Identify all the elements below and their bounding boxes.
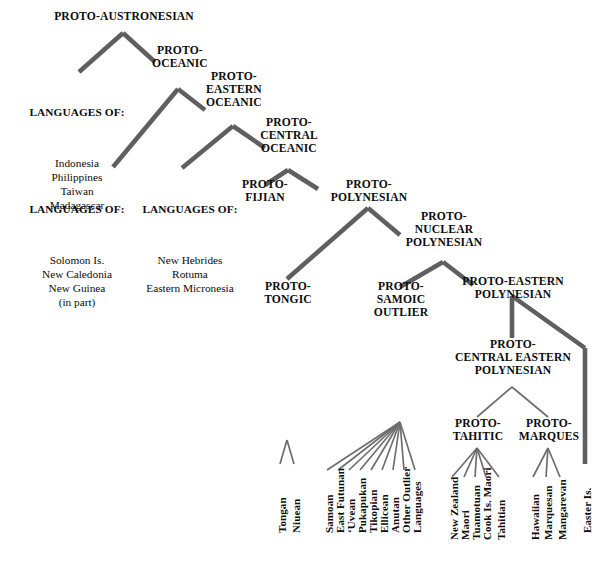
node-proto-central-eastern-polynesian[interactable]: PROTO- CENTRAL EASTERN POLYNESIAN — [435, 338, 591, 377]
edge-pcep-to-tahitic — [477, 387, 512, 417]
group-western-heading: LANGUAGES OF: — [12, 106, 142, 119]
edge-tongic-leaf-0 — [280, 440, 287, 464]
node-proto-tongic[interactable]: PROTO- TONGIC — [249, 280, 327, 306]
leaf-cook-is-maori[interactable]: Cook Is. Maori — [481, 467, 493, 540]
leaf-tahitian[interactable]: Tahitian — [495, 500, 507, 540]
edge-samoic-leaf-3 — [360, 422, 400, 470]
edge-tahitic-leaf-2 — [475, 448, 477, 477]
node-proto-austronesian[interactable]: PROTO-AUSTRONESIAN — [34, 10, 214, 23]
leaf-marquesan[interactable]: Marquesan — [542, 486, 554, 540]
node-proto-samoic-outlier[interactable]: PROTO- SAMOIC OUTLIER — [362, 280, 440, 319]
group-melanesian-heading: LANGUAGES OF: — [12, 203, 142, 216]
node-proto-oceanic[interactable]: PROTO- OCEANIC — [135, 44, 225, 70]
edge-marques-leaf-0 — [533, 448, 548, 477]
node-proto-nuclear-polynesian[interactable]: PROTO- NUCLEAR POLYNESIAN — [391, 210, 497, 249]
edge-tahitic-leaf-1 — [464, 448, 477, 477]
edge-samoic-leaf-8 — [400, 422, 415, 470]
leaf-niuean[interactable]: Niuean — [290, 499, 302, 533]
edge-tahitic-leaf-0 — [452, 448, 477, 477]
edge-samoic-leaf-7 — [400, 422, 404, 470]
group-melanesian-languages[interactable]: LANGUAGES OF: Solomon Is. New Caledonia … — [12, 165, 142, 348]
node-proto-eastern-polynesian[interactable]: PROTO-EASTERN POLYNESIAN — [452, 275, 574, 301]
node-proto-marques[interactable]: PROTO- MARQUES — [508, 417, 590, 443]
edge-marques-leaf-2 — [548, 448, 560, 477]
edge-samoic-leaf-0 — [327, 422, 400, 470]
leaf-mangarevan[interactable]: Mangarevan — [556, 479, 568, 540]
edge-samoic-leaf-5 — [382, 422, 400, 470]
edge-eo-to-eo-langs — [182, 126, 233, 168]
edge-tongic-leaf-1 — [287, 440, 294, 464]
edge-pp-to-tongic — [287, 208, 368, 279]
edge-samoic-leaf-1 — [338, 422, 400, 470]
edge-pcep-to-marques — [512, 387, 548, 417]
leaf-tongan[interactable]: Tongan — [276, 497, 288, 533]
leaf-easter-is[interactable]: Easter Is. — [581, 488, 593, 533]
group-eastern-oceanic-members: New Hebrides Rotuma Eastern Micronesia — [125, 254, 255, 295]
group-eastern-oceanic-heading: LANGUAGES OF: — [125, 203, 255, 216]
edge-pan-to-western — [79, 33, 123, 72]
group-eastern-oceanic-languages[interactable]: LANGUAGES OF: New Hebrides Rotuma Easter… — [125, 165, 255, 334]
group-melanesian-members: Solomon Is. New Caledonia New Guinea (in… — [12, 254, 142, 309]
edge-marques-leaf-1 — [546, 448, 548, 477]
edge-samoic-leaf-6 — [393, 422, 400, 470]
leaf-other-outlier-languages[interactable]: Languages — [411, 481, 423, 533]
node-proto-polynesian[interactable]: PROTO- POLYNESIAN — [316, 178, 422, 204]
node-proto-central-oceanic[interactable]: PROTO- CENTRAL OCEANIC — [244, 116, 334, 155]
language-family-tree-diagram: PROTO-AUSTRONESIAN PROTO- OCEANIC PROTO-… — [0, 0, 610, 561]
node-proto-tahitic[interactable]: PROTO- TAHITIC — [441, 417, 515, 443]
edge-samoic-leaf-4 — [371, 422, 400, 470]
node-proto-eastern-oceanic[interactable]: PROTO- EASTERN OCEANIC — [188, 70, 280, 109]
edge-samoic-leaf-2 — [349, 422, 400, 470]
leaf-hawaiian[interactable]: Hawaiian — [529, 494, 541, 540]
